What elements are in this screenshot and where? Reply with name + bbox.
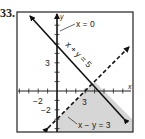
leader-x-equals-0	[60, 24, 75, 31]
label-x-minus-y-equals-3: x − y = 3	[78, 120, 111, 130]
x-axis-label: x	[127, 83, 132, 90]
y-axis-label: y	[59, 13, 64, 21]
tick-label-y-3: 3	[45, 58, 50, 68]
graph: y x x = 0 x + y = 5 x − y = 3 −2 3 3 −2	[0, 0, 145, 139]
label-x-plus-y-equals-5: x + y = 5	[64, 39, 94, 69]
tick-label-y-neg2: −2	[41, 105, 51, 115]
label-x-equals-0: x = 0	[76, 19, 95, 29]
tick-label-x-3: 3	[82, 97, 87, 107]
